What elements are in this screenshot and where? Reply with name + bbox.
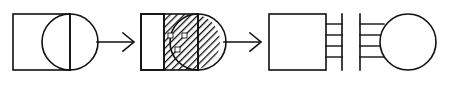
step-3-group: [269, 14, 342, 70]
arrow-2: [224, 33, 261, 51]
technical-line-drawing: [0, 0, 450, 89]
step-3-square: [269, 14, 326, 70]
diagram-canvas: Process sequence diagram: [0, 0, 450, 89]
step-4-circle: [380, 14, 436, 70]
step-2-dot-1: [168, 33, 173, 38]
step-2-group: [141, 10, 226, 74]
step-2-open-cell: [141, 14, 164, 70]
step-2-dot-3: [175, 47, 180, 52]
step-1-group: [13, 14, 98, 70]
step-4-group: [360, 14, 436, 70]
step-2-dot-2: [182, 33, 187, 38]
arrow-1: [97, 33, 134, 51]
